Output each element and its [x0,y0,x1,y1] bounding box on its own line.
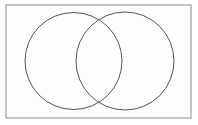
outer-rectangle-border [6,5,191,118]
venn-diagram-canvas [0,0,198,125]
venn-diagram-figure [0,0,198,125]
